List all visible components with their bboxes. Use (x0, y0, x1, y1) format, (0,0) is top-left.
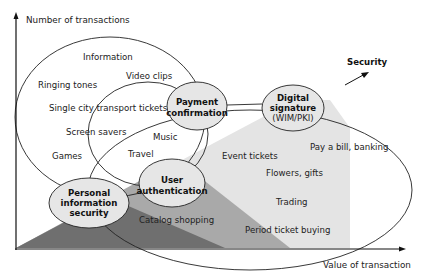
item-ringing-tones: Ringing tones (38, 80, 98, 90)
digital-signature-line3: (WIM/PKI) (272, 113, 313, 123)
personal-info-line1: Personal (68, 188, 110, 198)
personal-info-line2: information (61, 198, 118, 208)
item-pay-bill-banking: Pay a bill, banking (310, 142, 388, 152)
item-flowers-gifts: Flowers, gifts (266, 168, 323, 178)
item-screen-savers: Screen savers (66, 127, 127, 137)
x-axis-label: Value of transaction (323, 260, 411, 270)
payment-confirmation-line2: confirmation (166, 108, 228, 118)
user-authentication-line2: authentication (136, 186, 207, 196)
y-axis-arrow-icon (14, 12, 19, 19)
item-single-city-transport: Single city transport tickets (49, 103, 168, 113)
item-event-tickets: Event tickets (222, 151, 278, 161)
payment-confirmation-line1: Payment (176, 97, 218, 107)
x-axis-arrow-icon (399, 247, 406, 252)
item-travel: Travel (127, 149, 154, 159)
item-video-clips: Video clips (126, 71, 173, 81)
security-arrow-line (345, 74, 365, 85)
security-arrow-icon (361, 72, 369, 78)
security-label: Security (347, 57, 388, 67)
item-music: Music (153, 132, 178, 142)
item-information: Information (83, 52, 133, 62)
item-period-ticket-buying: Period ticket buying (245, 225, 330, 235)
item-games: Games (52, 151, 83, 161)
y-axis-label: Number of transactions (26, 15, 130, 25)
digital-signature-line2: signature (270, 103, 317, 113)
user-authentication-line1: User (161, 175, 184, 185)
diagram-canvas: Number of transactions Value of transact… (0, 0, 421, 279)
item-catalog-shopping: Catalog shopping (139, 215, 214, 225)
digital-signature-line1: Digital (277, 93, 309, 103)
connector-line (227, 104, 262, 105)
item-trading: Trading (275, 197, 308, 207)
personal-info-line3: security (69, 208, 108, 218)
